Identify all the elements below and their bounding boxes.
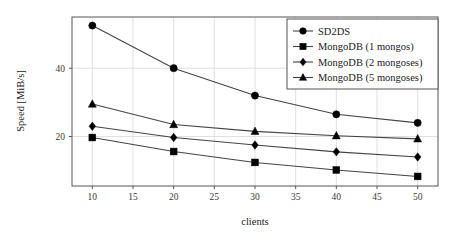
legend: SD2DSMongoDB (1 mongos)MongoDB (2 mongos… bbox=[287, 19, 438, 89]
y-tick-label: 40 bbox=[56, 64, 66, 74]
x-tick-label: 30 bbox=[250, 192, 260, 202]
data-point-triangle bbox=[88, 100, 96, 107]
x-tick-label: 25 bbox=[210, 192, 220, 202]
x-tick-label: 50 bbox=[413, 192, 423, 202]
data-point-diamond bbox=[333, 148, 340, 156]
x-tick-label: 35 bbox=[291, 192, 301, 202]
line-chart: 1015202530354045502040 clients Speed [Mi… bbox=[0, 0, 476, 232]
x-tick-label: 40 bbox=[332, 192, 342, 202]
x-tick-label: 10 bbox=[88, 192, 98, 202]
legend-label: MongoDB (5 mongoses) bbox=[318, 72, 423, 84]
chart-figure: 1015202530354045502040 clients Speed [Mi… bbox=[0, 0, 476, 232]
data-point-diamond bbox=[89, 122, 96, 130]
data-point-circle bbox=[251, 92, 258, 99]
x-tick-label: 45 bbox=[372, 192, 382, 202]
data-point-square bbox=[414, 173, 421, 180]
data-point-square bbox=[252, 159, 259, 166]
data-point-circle bbox=[414, 119, 421, 126]
data-point-square bbox=[170, 148, 177, 155]
data-point-diamond bbox=[252, 141, 259, 149]
y-axis-title: Speed [MiB/s] bbox=[15, 70, 26, 132]
data-point-circle bbox=[89, 22, 96, 29]
legend-label: MongoDB (1 mongos) bbox=[318, 41, 414, 53]
data-point-square bbox=[300, 43, 306, 49]
x-tick-label: 20 bbox=[169, 192, 179, 202]
data-point-square bbox=[89, 134, 96, 141]
data-point-circle bbox=[170, 65, 177, 72]
data-point-diamond bbox=[170, 133, 177, 141]
data-point-square bbox=[333, 167, 340, 174]
data-point-circle bbox=[333, 111, 340, 118]
x-axis-title: clients bbox=[241, 216, 268, 227]
x-tick-label: 15 bbox=[128, 192, 138, 202]
data-point-diamond bbox=[414, 153, 421, 161]
data-point-circle bbox=[300, 28, 307, 35]
legend-label: MongoDB (2 mongoses) bbox=[318, 57, 423, 69]
y-tick-label: 20 bbox=[56, 132, 66, 142]
legend-label: SD2DS bbox=[318, 26, 350, 37]
